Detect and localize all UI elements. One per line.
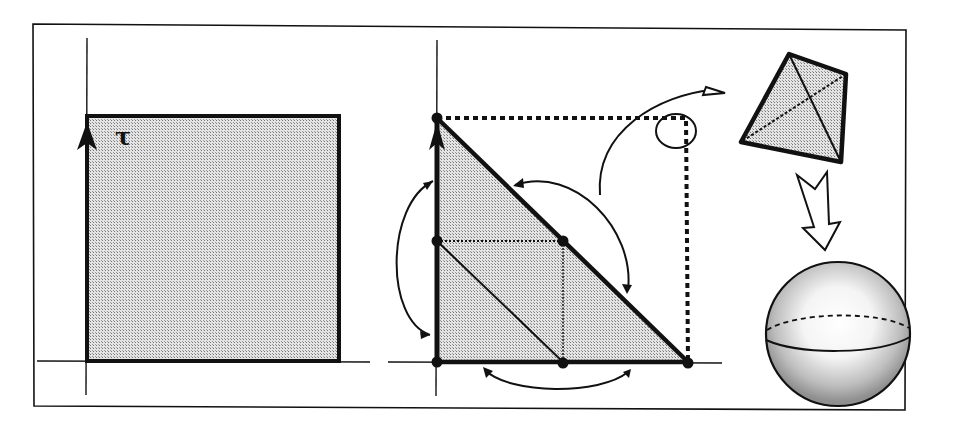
point (558, 236, 569, 247)
to-tetrahedron-arrow (600, 90, 712, 195)
square-domain (87, 116, 339, 361)
tau-label: τ (115, 122, 131, 151)
panel-square (37, 38, 370, 395)
point (432, 113, 443, 124)
tetrahedron (741, 54, 846, 162)
hollow-down-arrow-icon (797, 172, 840, 250)
bottom-curved-arrow (485, 370, 628, 389)
sphere (766, 262, 910, 406)
figure-canvas (0, 0, 962, 429)
to-tetrahedron-arrowhead-icon (703, 87, 725, 95)
point (432, 357, 443, 368)
point (683, 358, 694, 369)
point (432, 236, 443, 247)
left-curved-arrow (397, 181, 433, 335)
panel-triangle (388, 40, 725, 396)
point (558, 358, 569, 369)
